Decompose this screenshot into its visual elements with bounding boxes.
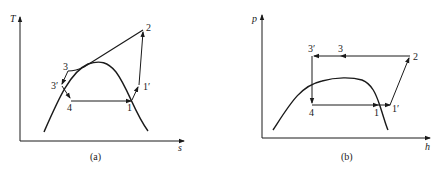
point-label-3-a: 3 [63,61,68,72]
saturation-dome-b [273,78,388,130]
point-label-1-b: 1 [374,107,379,118]
y-axis-label-a: T [10,13,17,24]
point-label-4-a: 4 [67,102,72,113]
saturation-dome-a [44,62,148,132]
axes-a: T s [10,13,184,153]
process-3-3p-a [62,71,68,84]
point-label-3-b: 3 [338,43,343,54]
point-label-4-b: 4 [309,107,314,118]
point-label-2-a: 2 [146,22,151,33]
caption-a: (a) [90,151,101,163]
process-2-3-a [68,30,143,71]
axes-b: p h [251,13,430,152]
diagram-a-ts: T s 2 3 3′ 4 1 1′ (a) [10,13,184,163]
point-label-3p-b: 3′ [308,43,315,54]
caption-b: (b) [341,151,353,163]
point-label-1-a: 1 [127,102,132,113]
process-1p-2-a [139,32,143,85]
process-1p-2-b [390,58,409,105]
point-label-3p-a: 3′ [51,80,58,91]
x-axis-label-b: h [425,141,430,152]
figure-canvas: T s 2 3 3′ 4 1 1′ (a) p h [0,0,434,172]
diagram-b-ph: p h 2 3 3′ 4 1 1′ (b) [251,13,430,163]
x-axis-label-a: s [178,142,182,153]
point-label-1p-a: 1′ [143,81,150,92]
point-label-1p-b: 1′ [392,103,399,114]
process-1-1p-a [132,87,138,100]
point-label-2-b: 2 [413,51,418,62]
y-axis-label-b: p [251,13,257,24]
